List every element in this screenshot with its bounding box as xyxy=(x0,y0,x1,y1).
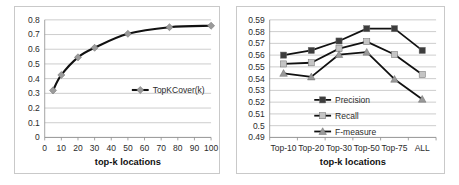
y-axis-tick-label: 0.4 xyxy=(28,74,40,84)
legend-marker-topkcover xyxy=(137,86,144,93)
legend-label-precision: Precision xyxy=(335,95,370,105)
y-axis-tick-label: 0.54 xyxy=(248,74,265,84)
data-point-topkcover xyxy=(91,44,98,51)
x-axis-tick-label: 30 xyxy=(90,143,100,153)
legend-label-recall: Recall xyxy=(335,111,359,121)
x-axis-tick-label: Top-75 xyxy=(381,143,407,153)
x-axis-tick-label: 100 xyxy=(204,143,218,153)
y-axis-tick-label: 0.57 xyxy=(248,38,265,48)
data-point-precision xyxy=(364,26,370,32)
y-axis-tick-label: 0.6 xyxy=(28,44,40,54)
data-point-topkcover xyxy=(49,87,56,94)
y-axis-tick-label: 0.7 xyxy=(28,30,40,40)
x-axis-tick-label: 70 xyxy=(156,143,166,153)
data-point-precision xyxy=(419,47,425,53)
x-axis-tick-label: 80 xyxy=(173,143,183,153)
y-axis-tick-label: 0.8 xyxy=(28,15,40,25)
data-point-recall xyxy=(280,61,286,67)
data-point-precision xyxy=(336,38,342,44)
topkcover-line-chart: 00.10.20.30.40.50.60.70.8010203040506070… xyxy=(15,7,219,173)
y-axis-tick-label: 0.58 xyxy=(248,27,265,37)
y-axis-tick-label: 0.5 xyxy=(253,121,265,131)
y-axis-tick-label: 0.49 xyxy=(248,132,265,142)
y-axis-tick-label: 0.2 xyxy=(28,103,40,113)
y-axis-tick-label: 0 xyxy=(35,132,40,142)
x-axis-tick-label: 10 xyxy=(57,143,67,153)
x-axis-tick-label: Top-10 xyxy=(271,143,297,153)
y-axis-tick-label: 0.53 xyxy=(248,85,265,95)
figure-container: 00.10.20.30.40.50.60.70.8010203040506070… xyxy=(0,0,459,185)
data-point-recall xyxy=(419,71,425,77)
data-point-recall xyxy=(391,51,397,57)
x-axis-tick-label: Top-50 xyxy=(354,143,380,153)
series-line-recall xyxy=(284,42,423,75)
x-axis-title: top-k locations xyxy=(95,157,161,167)
legend-marker-precision xyxy=(320,97,326,103)
chart-right-plot-area: 0.490.50.510.520.530.540.550.560.570.580… xyxy=(237,7,444,173)
x-axis-tick-label: 90 xyxy=(190,143,200,153)
y-axis-tick-label: 0.52 xyxy=(248,97,265,107)
y-axis-tick-label: 0.55 xyxy=(248,62,265,72)
x-axis-tick-label: 50 xyxy=(123,143,133,153)
legend-label-topkcover: TopKCover(k) xyxy=(153,85,205,95)
caption-strip xyxy=(0,175,459,185)
data-point-topkcover xyxy=(124,30,131,37)
data-point-precision xyxy=(308,47,314,53)
chart-topkcover: 00.10.20.30.40.50.60.70.8010203040506070… xyxy=(14,6,220,174)
data-point-precision xyxy=(391,26,397,32)
y-axis-tick-label: 0.5 xyxy=(28,59,40,69)
x-axis-title: top-k locations xyxy=(320,157,386,167)
data-point-topkcover xyxy=(208,22,215,29)
chart-left-plot-area: 00.10.20.30.40.50.60.70.8010203040506070… xyxy=(15,7,219,173)
y-axis-tick-label: 0.59 xyxy=(248,15,265,25)
x-axis-tick-label: 60 xyxy=(140,143,150,153)
x-axis-tick-label: 0 xyxy=(42,143,47,153)
legend-label-f-measure: F-measure xyxy=(335,127,376,137)
data-point-recall xyxy=(308,60,314,66)
x-axis-tick-label: Top-20 xyxy=(298,143,324,153)
x-axis-tick-label: 20 xyxy=(73,143,83,153)
chart-precision-recall-fmeasure: 0.490.50.510.520.530.540.550.560.570.580… xyxy=(236,6,445,174)
y-axis-tick-label: 0.56 xyxy=(248,50,265,60)
series-line-precision xyxy=(284,29,423,55)
x-axis-tick-label: ALL xyxy=(415,143,430,153)
x-axis-tick-label: Top-30 xyxy=(326,143,352,153)
data-point-recall xyxy=(364,39,370,45)
y-axis-tick-label: 0.1 xyxy=(28,118,40,128)
legend-marker-recall xyxy=(320,113,326,119)
precision-recall-line-chart: 0.490.50.510.520.530.540.550.560.570.580… xyxy=(237,7,444,173)
y-axis-tick-label: 0.3 xyxy=(28,88,40,98)
y-axis-tick-label: 0.51 xyxy=(248,109,265,119)
x-axis-tick-label: 40 xyxy=(107,143,117,153)
data-point-topkcover xyxy=(166,24,173,31)
data-point-precision xyxy=(280,52,286,58)
